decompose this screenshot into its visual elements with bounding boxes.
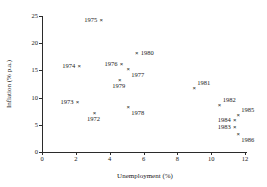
cross-marker-icon: × <box>135 50 139 56</box>
y-tick-mark <box>39 70 42 71</box>
cross-marker-icon: × <box>77 63 81 69</box>
cross-marker-icon: × <box>192 85 196 91</box>
x-tick-label: 2 <box>74 156 77 163</box>
y-tick-mark <box>39 43 42 44</box>
y-tick-label: 25 <box>30 13 38 20</box>
x-tick-label: 0 <box>40 156 43 163</box>
data-point-label: 1981 <box>197 80 210 87</box>
cross-marker-icon: × <box>99 17 103 23</box>
cross-marker-icon: × <box>127 66 131 72</box>
y-tick-mark <box>39 16 42 17</box>
y-tick-label: 15 <box>30 67 38 74</box>
data-point-label: 1985 <box>241 107 254 114</box>
data-point-label: 1974 <box>62 63 75 70</box>
cross-marker-icon: × <box>120 61 124 67</box>
y-tick-label: 0 <box>30 149 38 156</box>
x-axis-title: Unemployment (%) <box>117 172 173 180</box>
x-tick-label: 4 <box>108 156 111 163</box>
y-tick-mark <box>39 98 42 99</box>
y-axis-line <box>42 16 43 152</box>
y-axis-title: Inflation (% p.a.) <box>5 44 13 124</box>
y-tick-label: 20 <box>30 40 38 47</box>
cross-marker-icon: × <box>76 99 80 105</box>
x-tick-label: 12 <box>242 156 249 163</box>
scatter-chart: 024681012 0510152025 ×1975×1980×1976×197… <box>0 0 267 187</box>
cross-marker-icon: × <box>218 102 222 108</box>
data-point-label: 1982 <box>223 97 236 104</box>
data-point-label: 1978 <box>131 110 144 117</box>
data-point-label: 1973 <box>61 99 74 106</box>
data-point-label: 1983 <box>218 124 231 131</box>
data-point-label: 1975 <box>84 17 97 24</box>
cross-marker-icon: × <box>236 131 240 137</box>
plot-area: 024681012 0510152025 ×1975×1980×1976×197… <box>0 0 267 187</box>
data-point-label: 1977 <box>131 72 144 79</box>
cross-marker-icon: × <box>127 104 131 110</box>
data-point-label: 1972 <box>87 116 100 123</box>
cross-marker-icon: × <box>233 124 237 130</box>
y-tick-mark <box>39 125 42 126</box>
x-axis-line <box>42 152 247 153</box>
y-tick-label: 10 <box>30 94 38 101</box>
x-tick-label: 6 <box>142 156 145 163</box>
cross-marker-icon: × <box>233 117 237 123</box>
data-point-label: 1986 <box>241 137 254 144</box>
data-point-label: 1979 <box>112 83 125 90</box>
x-tick-label: 10 <box>208 156 215 163</box>
data-point-label: 1976 <box>105 61 118 68</box>
data-point-label: 1980 <box>141 50 154 57</box>
y-tick-mark <box>39 152 42 153</box>
x-tick-label: 8 <box>176 156 179 163</box>
y-tick-label: 5 <box>30 122 38 129</box>
